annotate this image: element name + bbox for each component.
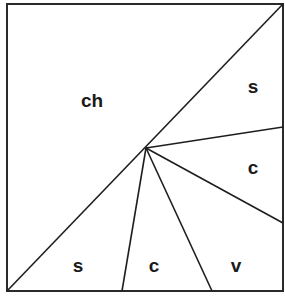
divider-line-to-right-upper [146,127,283,148]
divider-lines [7,4,283,291]
region-label-bottom-center: c [149,255,160,276]
region-label-upper-right: s [248,76,259,97]
region-label-right-middle: c [248,157,259,178]
region-label-bottom-left: s [73,255,84,276]
partition-diagram: ch s c s c v [0,0,285,296]
divider-line-to-bottom-left [122,148,146,291]
region-label-bottom-right: v [231,255,242,276]
region-labels: ch s c s c v [73,76,259,276]
divider-line-diagonal [7,4,283,291]
region-label-upper-left: ch [81,90,103,111]
divider-line-to-right-lower [146,148,283,223]
